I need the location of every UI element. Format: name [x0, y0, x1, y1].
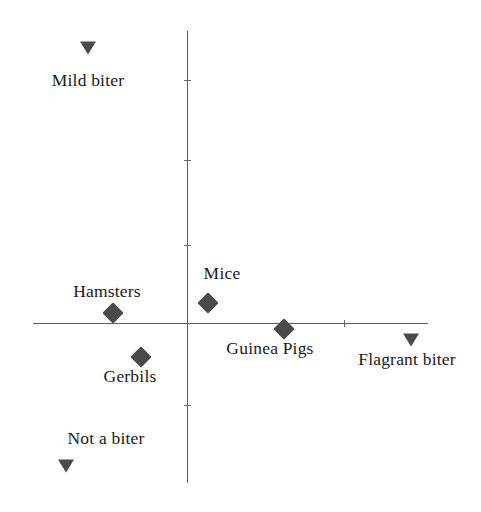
y-axis-line	[187, 31, 188, 483]
marker-gerbils	[130, 346, 151, 367]
marker-mild-biter	[80, 42, 96, 55]
label-flagrant-biter: Flagrant biter	[358, 351, 456, 369]
x-axis-tick-1	[344, 320, 345, 327]
marker-not-a-biter	[58, 460, 74, 473]
marker-guinea-pigs	[273, 318, 294, 339]
label-mice: Mice	[204, 265, 241, 283]
y-axis-tick-4	[184, 405, 191, 406]
marker-mice	[197, 292, 218, 313]
y-axis-tick-1	[184, 80, 191, 81]
label-hamsters: Hamsters	[73, 283, 141, 301]
marker-flagrant-biter	[403, 334, 419, 347]
label-mild-biter: Mild biter	[52, 72, 124, 90]
label-guinea-pigs: Guinea Pigs	[226, 340, 313, 358]
y-axis-tick-3	[184, 245, 191, 246]
label-not-a-biter: Not a biter	[67, 430, 144, 448]
scatter-chart: Mild biter Flagrant biter Not a biter Ha…	[0, 0, 481, 512]
x-axis-line	[33, 323, 428, 324]
y-axis-tick-2	[184, 160, 191, 161]
marker-hamsters	[102, 302, 123, 323]
label-gerbils: Gerbils	[104, 368, 157, 386]
